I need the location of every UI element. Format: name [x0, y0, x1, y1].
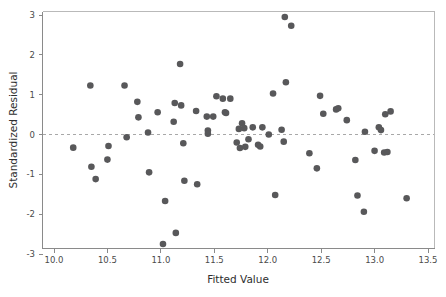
data-point	[171, 100, 178, 107]
data-point	[210, 113, 217, 120]
data-point	[205, 130, 212, 137]
data-point	[403, 195, 410, 202]
data-point	[154, 109, 161, 116]
data-point	[306, 150, 313, 157]
data-point	[162, 198, 169, 205]
data-point	[92, 176, 99, 183]
data-point	[270, 90, 277, 97]
chart-root: 10.010.511.011.512.012.513.013.5 3210-1-…	[0, 0, 446, 297]
y-axis-title: Standardized Residual	[7, 71, 19, 188]
y-tick-label: -3	[27, 249, 35, 259]
x-tick-label: 13.5	[419, 255, 438, 265]
data-point	[123, 134, 130, 141]
data-point	[70, 144, 77, 151]
data-point	[361, 208, 368, 215]
x-axis-title: Fitted Value	[207, 273, 269, 285]
data-point	[145, 129, 152, 136]
data-point	[87, 82, 94, 89]
data-point	[371, 148, 378, 155]
y-tick-label: 2	[30, 50, 35, 60]
x-tick-label: 11.5	[205, 255, 224, 265]
data-point	[223, 110, 230, 117]
scatter-plot: 10.010.511.011.512.012.513.013.5 3210-1-…	[0, 0, 446, 297]
data-point	[257, 143, 264, 150]
x-tick-label: 10.5	[98, 255, 117, 265]
data-point	[180, 140, 187, 147]
data-point	[320, 110, 327, 117]
data-point	[173, 230, 180, 237]
data-point	[314, 165, 321, 172]
data-point	[387, 108, 394, 115]
data-point	[384, 149, 391, 156]
data-point	[146, 169, 153, 176]
data-point	[227, 95, 234, 102]
data-point	[259, 124, 266, 131]
data-point	[335, 105, 342, 112]
data-point	[280, 138, 287, 145]
data-point	[177, 61, 184, 68]
data-point	[178, 102, 185, 109]
chart-background	[0, 0, 446, 297]
data-point	[241, 125, 248, 132]
data-point	[160, 241, 167, 248]
data-point	[233, 139, 240, 146]
data-point	[135, 114, 142, 121]
data-point	[104, 156, 111, 163]
data-point	[134, 99, 141, 106]
data-point	[283, 79, 290, 86]
x-tick-label: 12.5	[312, 255, 331, 265]
x-tick-label: 10.0	[45, 255, 64, 265]
x-tick-label: 11.0	[151, 255, 170, 265]
x-tick-label: 12.0	[258, 255, 277, 265]
data-point	[282, 14, 289, 21]
data-point	[245, 136, 252, 143]
data-point	[213, 93, 220, 100]
data-point	[354, 192, 361, 199]
data-point	[105, 143, 112, 150]
data-point	[352, 157, 359, 164]
y-tick-label: -2	[27, 209, 35, 219]
data-point	[88, 163, 95, 170]
data-point	[378, 127, 385, 134]
x-tick-label: 13.0	[365, 255, 384, 265]
data-point	[288, 22, 295, 29]
data-point	[265, 131, 272, 138]
data-point	[362, 128, 369, 135]
data-point	[121, 82, 128, 89]
y-tick-label: 1	[30, 90, 35, 100]
data-point	[193, 108, 200, 115]
data-point	[242, 144, 249, 151]
data-point	[204, 113, 211, 120]
y-tick-label: -1	[27, 169, 35, 179]
data-point	[317, 93, 324, 100]
data-point	[170, 118, 177, 125]
data-point	[220, 95, 227, 102]
data-point	[278, 126, 285, 133]
y-tick-label: 0	[30, 130, 35, 140]
data-point	[272, 192, 279, 199]
data-point	[194, 181, 201, 188]
data-point	[343, 117, 350, 124]
data-point	[249, 124, 256, 131]
data-point	[181, 177, 188, 184]
y-tick-label: 3	[30, 10, 35, 20]
